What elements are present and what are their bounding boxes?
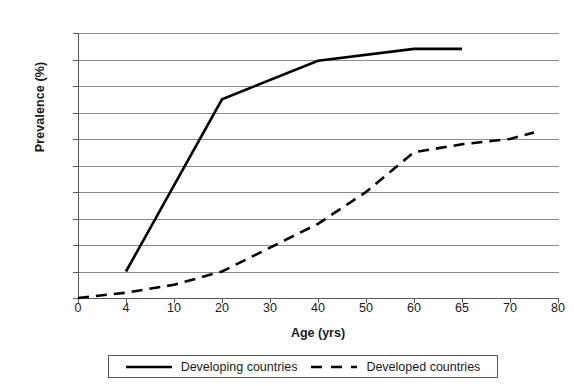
chart-figure: Prevalence (%) 0102030405060708090100 04… bbox=[0, 0, 574, 386]
x-axis-tick-mark bbox=[366, 298, 367, 303]
x-axis-tick-mark bbox=[462, 298, 463, 303]
x-axis-tick-mark bbox=[510, 298, 511, 303]
y-axis-title: Prevalence (%) bbox=[33, 7, 47, 207]
x-axis-title: Age (yrs) bbox=[78, 326, 558, 340]
chart-legend: Developing countriesDeveloped countries bbox=[108, 355, 498, 378]
y-axis-tick-mark bbox=[73, 219, 78, 220]
x-axis-tick-mark bbox=[78, 298, 79, 303]
y-axis-tick-mark bbox=[73, 245, 78, 246]
x-axis-tick-label: 80 bbox=[538, 302, 574, 315]
plot-area bbox=[78, 33, 559, 299]
y-axis-tick-mark bbox=[73, 139, 78, 140]
gridline bbox=[79, 139, 559, 140]
x-axis-tick-label: 20 bbox=[202, 302, 242, 315]
legend-line-swatch-dashed bbox=[311, 362, 357, 372]
gridline bbox=[79, 113, 559, 114]
gridline bbox=[79, 245, 559, 246]
x-axis-tick-mark bbox=[222, 298, 223, 303]
y-axis-tick-mark bbox=[73, 113, 78, 114]
x-axis-tick-mark bbox=[126, 298, 127, 303]
x-axis-tick-label: 70 bbox=[490, 302, 530, 315]
y-axis-tick-mark bbox=[73, 33, 78, 34]
x-axis-tick-label: 0 bbox=[58, 302, 98, 315]
x-axis-tick-mark bbox=[318, 298, 319, 303]
gridline bbox=[79, 166, 559, 167]
gridline bbox=[79, 272, 559, 273]
gridline bbox=[79, 33, 559, 34]
x-axis-tick-mark bbox=[558, 298, 559, 303]
legend-entry[interactable]: Developed countries bbox=[311, 360, 480, 374]
gridline bbox=[79, 219, 559, 220]
x-axis-tick-mark bbox=[414, 298, 415, 303]
gridline bbox=[79, 60, 559, 61]
x-axis-tick-label: 4 bbox=[106, 302, 146, 315]
x-axis-tick-mark bbox=[174, 298, 175, 303]
x-axis-tick-label: 30 bbox=[250, 302, 290, 315]
x-axis-tick-mark bbox=[270, 298, 271, 303]
x-axis-tick-label: 40 bbox=[298, 302, 338, 315]
legend-entry[interactable]: Developing countries bbox=[126, 360, 298, 374]
y-axis-tick-mark bbox=[73, 192, 78, 193]
x-axis-tick-label: 50 bbox=[346, 302, 386, 315]
x-axis-tick-label: 65 bbox=[442, 302, 482, 315]
legend-label: Developed countries bbox=[366, 360, 480, 374]
legend-line-swatch-solid bbox=[126, 362, 172, 372]
y-axis-tick-mark bbox=[73, 86, 78, 87]
gridline bbox=[79, 86, 559, 87]
x-axis-tick-label: 60 bbox=[394, 302, 434, 315]
y-axis-tick-mark bbox=[73, 272, 78, 273]
y-axis-tick-mark bbox=[73, 166, 78, 167]
legend-label: Developing countries bbox=[181, 360, 298, 374]
gridline bbox=[79, 192, 559, 193]
y-axis-tick-mark bbox=[73, 60, 78, 61]
x-axis-tick-label: 10 bbox=[154, 302, 194, 315]
